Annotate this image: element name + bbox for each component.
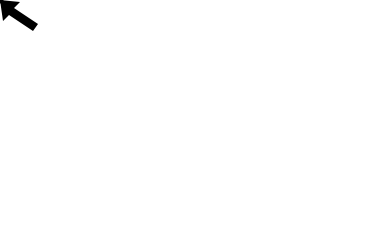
move-arrow-icon [0,0,38,31]
drawing-canvas[interactable] [0,0,377,232]
canvas-svg [0,0,377,232]
